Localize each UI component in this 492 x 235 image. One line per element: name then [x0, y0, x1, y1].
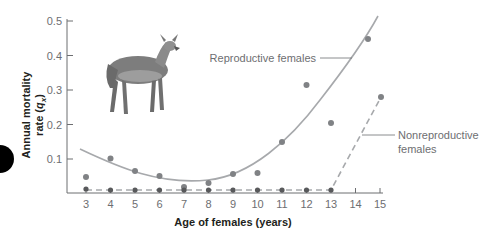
- x-tick-6: 6: [156, 198, 162, 210]
- mortality-chart: 0.5 0.4 0.3 0.2 0.1 3 4 5 6 7 8 9 10: [0, 0, 492, 235]
- x-axis: 3 4 5 6 7 8 9 10 11 12 13 14 15: [67, 188, 386, 210]
- x-tick-14: 14: [349, 198, 361, 210]
- x-tick-12: 12: [300, 198, 312, 210]
- nonreproductive-label-line2: females: [398, 143, 437, 155]
- y-tick-0.4: 0.4: [47, 50, 62, 62]
- x-tick-9: 9: [230, 198, 236, 210]
- y-axis: 0.5 0.4 0.3 0.2 0.1: [47, 15, 73, 193]
- y-tick-0.3: 0.3: [47, 84, 62, 96]
- x-tick-5: 5: [132, 198, 138, 210]
- x-axis-title: Age of females (years): [174, 216, 292, 228]
- y-tick-0.5: 0.5: [47, 15, 62, 27]
- x-tick-3: 3: [83, 198, 89, 210]
- svg-text:Annual mortality: Annual mortality: [20, 71, 32, 159]
- x-tick-15: 15: [374, 198, 386, 210]
- nonreproductive-label-line1: Nonreproductive: [398, 129, 479, 141]
- x-tick-7: 7: [181, 198, 187, 210]
- x-tick-4: 4: [107, 198, 113, 210]
- x-tick-13: 13: [325, 198, 337, 210]
- reproductive-label: Reproductive females: [210, 52, 317, 64]
- y-tick-0.1: 0.1: [47, 153, 62, 165]
- y-tick-0.2: 0.2: [47, 119, 62, 131]
- x-tick-10: 10: [251, 198, 263, 210]
- y-axis-title: Annual mortality rate (qx): [20, 71, 48, 159]
- x-tick-11: 11: [276, 198, 287, 210]
- nonreproductive-points: [83, 94, 384, 193]
- x-tick-8: 8: [205, 198, 211, 210]
- deer-illustration: [106, 34, 180, 114]
